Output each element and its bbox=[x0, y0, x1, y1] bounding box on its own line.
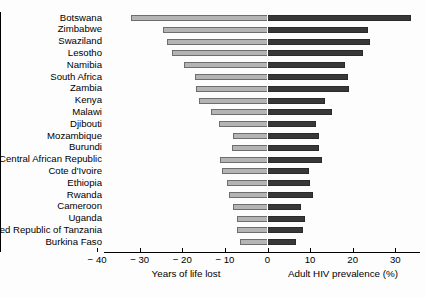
bar-years-of-life-lost bbox=[219, 121, 268, 127]
bar-hiv-prevalence bbox=[268, 192, 314, 198]
bar-years-of-life-lost bbox=[211, 109, 268, 115]
x-axis-tick bbox=[310, 248, 311, 252]
bar-hiv-prevalence bbox=[268, 204, 301, 210]
x-axis-tick-label: − 30 bbox=[130, 255, 149, 265]
bar-hiv-prevalence bbox=[268, 227, 304, 233]
bar-hiv-prevalence bbox=[268, 133, 320, 139]
x-axis-tick-label: − 40 bbox=[88, 255, 107, 265]
bar-hiv-prevalence bbox=[268, 121, 317, 127]
x-axis-tick bbox=[140, 248, 141, 252]
bar-hiv-prevalence bbox=[268, 27, 369, 33]
x-axis-tick bbox=[268, 248, 269, 252]
bar-hiv-prevalence bbox=[268, 180, 311, 186]
bar-years-of-life-lost bbox=[199, 98, 267, 104]
bar-years-of-life-lost bbox=[131, 15, 267, 21]
bar-years-of-life-lost bbox=[233, 204, 268, 210]
bar-hiv-prevalence bbox=[268, 15, 412, 21]
bar-hiv-prevalence bbox=[268, 86, 349, 92]
x-axis-tick bbox=[225, 248, 226, 252]
hiv-life-lost-chart: BotswanaZimbabweSwazilandLesothoNamibiaS… bbox=[0, 0, 425, 298]
bar-hiv-prevalence bbox=[268, 74, 349, 80]
bar-years-of-life-lost bbox=[222, 168, 268, 174]
bar-years-of-life-lost bbox=[167, 39, 267, 45]
bar-hiv-prevalence bbox=[268, 145, 320, 151]
bar-hiv-prevalence bbox=[268, 62, 346, 68]
x-axis-tick bbox=[353, 248, 354, 252]
x-axis-tick-label: 30 bbox=[390, 255, 401, 265]
x-axis-tick bbox=[395, 248, 396, 252]
right-axis-title: Adult HIV prevalence (%) bbox=[288, 268, 398, 279]
bar-years-of-life-lost bbox=[232, 145, 267, 151]
bar-years-of-life-lost bbox=[229, 192, 267, 198]
x-axis-line bbox=[104, 252, 420, 253]
bar-hiv-prevalence bbox=[268, 157, 323, 163]
x-axis-tick-label: 20 bbox=[347, 255, 358, 265]
x-axis-tick-label: 10 bbox=[305, 255, 316, 265]
x-axis-tick-label: − 10 bbox=[215, 255, 234, 265]
bar-years-of-life-lost bbox=[195, 74, 267, 80]
bar-hiv-prevalence bbox=[268, 109, 333, 115]
x-axis-tick bbox=[97, 248, 98, 252]
bar-years-of-life-lost bbox=[184, 62, 267, 68]
bar-hiv-prevalence bbox=[268, 239, 297, 245]
bar-years-of-life-lost bbox=[220, 157, 268, 163]
bar-hiv-prevalence bbox=[268, 50, 363, 56]
zero-axis-line bbox=[0, 12, 1, 252]
bar-hiv-prevalence bbox=[268, 216, 305, 222]
bar-years-of-life-lost bbox=[233, 133, 268, 139]
left-axis-title: Years of life lost bbox=[152, 268, 221, 279]
plot-area bbox=[0, 0, 425, 250]
bar-hiv-prevalence bbox=[268, 39, 371, 45]
x-axis-tick bbox=[182, 248, 183, 252]
bar-years-of-life-lost bbox=[172, 50, 268, 56]
bar-hiv-prevalence bbox=[268, 98, 326, 104]
bar-years-of-life-lost bbox=[237, 227, 268, 233]
bar-hiv-prevalence bbox=[268, 168, 310, 174]
bar-years-of-life-lost bbox=[227, 180, 267, 186]
bar-years-of-life-lost bbox=[237, 216, 268, 222]
bar-years-of-life-lost bbox=[240, 239, 268, 245]
bar-years-of-life-lost bbox=[163, 27, 267, 33]
x-axis-tick-label: − 20 bbox=[173, 255, 192, 265]
bar-years-of-life-lost bbox=[196, 86, 268, 92]
x-axis-tick-label: 0 bbox=[265, 255, 270, 265]
